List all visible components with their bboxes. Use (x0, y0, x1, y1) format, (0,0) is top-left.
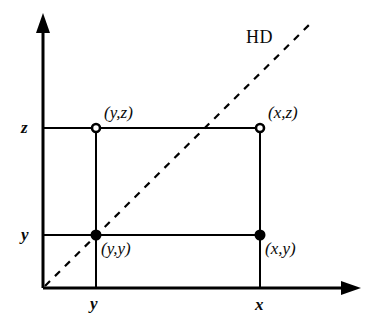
diagram-vector-layer (0, 0, 373, 329)
point-xy-label: (x,y) (265, 240, 296, 257)
point-yz-marker[interactable] (92, 124, 100, 132)
point-yy-label: (y,y) (101, 240, 131, 257)
diagram-canvas: z y y x (y,z) (x,z) (y,y) (x,y) HD (0, 0, 373, 329)
point-xz-marker[interactable] (256, 124, 264, 132)
point-xy-marker[interactable] (256, 231, 265, 240)
x-axis-tick-label-y: y (90, 295, 98, 312)
point-yz-label: (y,z) (104, 104, 133, 121)
gridlines-group (43, 128, 261, 288)
horizontal-axis-arrowhead (341, 281, 361, 295)
y-axis-tick-label-z: z (21, 119, 28, 136)
axes-group (36, 13, 361, 295)
point-yy-marker[interactable] (92, 231, 101, 240)
vertical-axis-arrowhead (36, 13, 50, 33)
x-axis-tick-label-x: x (255, 296, 264, 313)
point-xz-label: (x,z) (268, 104, 298, 121)
diagonal-line-label-hd: HD (246, 28, 273, 46)
y-axis-tick-label-y: y (21, 226, 29, 243)
point-markers-group (92, 124, 265, 239)
